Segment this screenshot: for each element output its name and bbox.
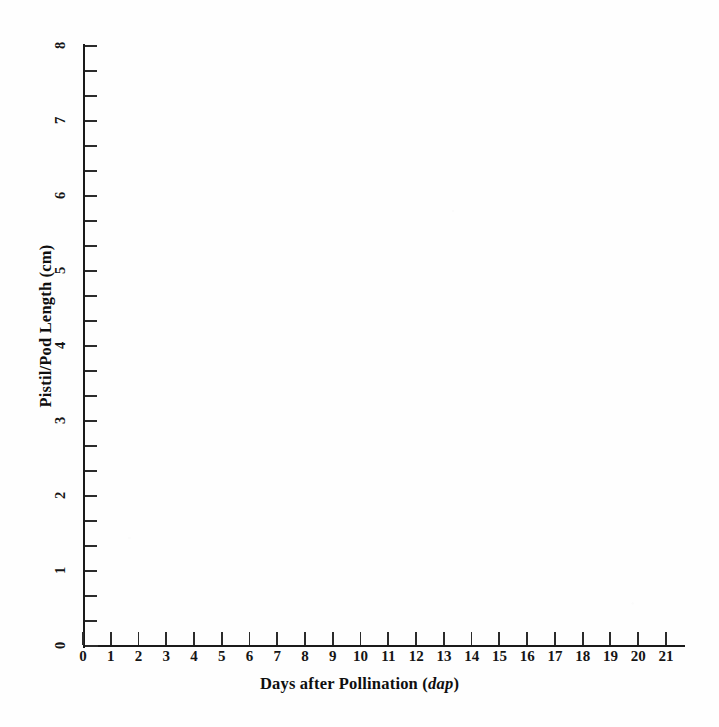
y-tick-label-text: 2 — [54, 492, 69, 499]
x-axis-title-close: ) — [453, 674, 459, 693]
x-tick-label: 4 — [179, 649, 209, 664]
x-tick-label: 17 — [540, 649, 570, 664]
x-tick-label: 1 — [96, 649, 126, 664]
x-axis-title-main: Days after Pollination ( — [260, 674, 428, 693]
x-tick-label: 3 — [151, 649, 181, 664]
y-tick-label-text: 1 — [54, 567, 69, 574]
x-tick-label: 9 — [318, 649, 348, 664]
x-tick-label: 2 — [124, 649, 154, 664]
x-tick-label: 12 — [401, 649, 431, 664]
x-tick-label: 15 — [484, 649, 514, 664]
y-tick-label-text: 7 — [54, 117, 69, 124]
x-axis-title: Days after Pollination (dap) — [0, 674, 719, 694]
y-axis-title: Pistil/Pod Length (cm) — [36, 196, 56, 456]
x-tick-label: 16 — [512, 649, 542, 664]
y-tick-label: 1 — [48, 563, 74, 578]
x-tick-label: 6 — [235, 649, 265, 664]
x-tick-label: 7 — [262, 649, 292, 664]
y-tick-label: 8 — [48, 38, 74, 53]
x-tick-label: 19 — [595, 649, 625, 664]
x-tick-label: 11 — [373, 649, 403, 664]
x-tick-label: 13 — [429, 649, 459, 664]
x-tick-label: 0 — [68, 649, 98, 664]
x-tick-label: 10 — [346, 649, 376, 664]
x-tick-label: 5 — [207, 649, 237, 664]
y-tick-label: 2 — [48, 488, 74, 503]
x-tick-label: 8 — [290, 649, 320, 664]
y-tick-label-text: 8 — [54, 42, 69, 49]
plot-area — [83, 46, 685, 646]
x-tick-label: 21 — [651, 649, 681, 664]
y-tick-label-text: 0 — [54, 642, 69, 649]
x-tick-label: 18 — [568, 649, 598, 664]
chart-figure: 012345678 012345678910111213141516171819… — [0, 0, 719, 727]
y-tick-label: 7 — [48, 113, 74, 128]
x-tick-label: 14 — [457, 649, 487, 664]
x-axis-title-unit: dap — [428, 674, 453, 693]
x-tick-label: 20 — [623, 649, 653, 664]
